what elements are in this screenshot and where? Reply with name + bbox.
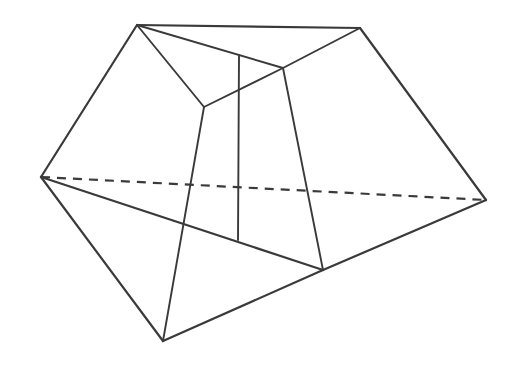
polyhedron-figure	[0, 0, 518, 366]
figure-background	[0, 0, 518, 366]
edge-center-vertical	[238, 55, 239, 240]
